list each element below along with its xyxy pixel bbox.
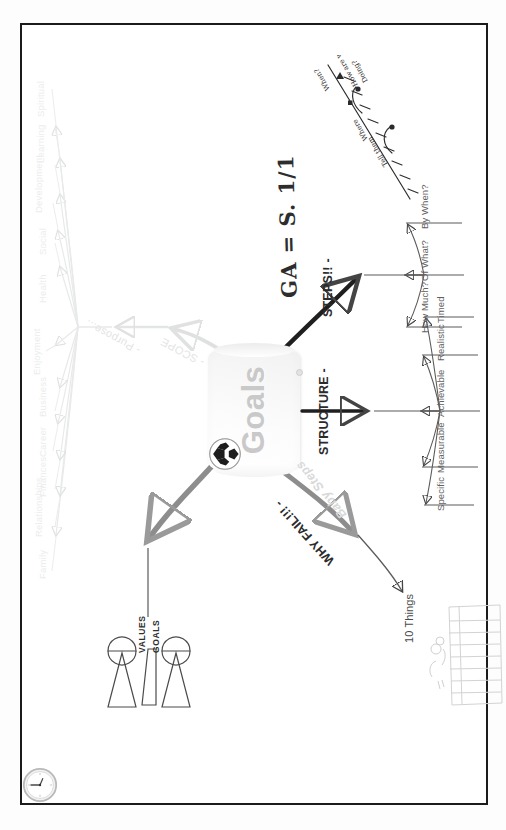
leaf-label-how-much: How Much?	[420, 282, 430, 333]
label-goals-caption: GOALS	[152, 620, 161, 653]
page-frame: Goals VALUES GOALS WHY FAIL	[20, 23, 488, 805]
life-areas-tails	[46, 89, 60, 571]
soccer-ball-icon	[208, 437, 242, 471]
sketch-note-where: Where	[351, 118, 370, 142]
branch-label-steps: STEPS!! -	[322, 258, 335, 317]
life-area-development: Development	[34, 155, 44, 213]
hand-drawn-grid-sketch	[426, 601, 504, 711]
life-area-career: Career	[38, 427, 48, 457]
life-area-family: Family	[38, 550, 48, 579]
life-area-business: Business	[38, 377, 48, 417]
leaf-label-of-what: Of What?	[420, 240, 430, 281]
leaf-label-10-things: 10 Things	[404, 594, 415, 643]
analog-clock-icon	[22, 767, 58, 803]
life-area-learning: Learning	[36, 124, 46, 163]
mindmap-canvas: Goals VALUES GOALS WHY FAIL	[22, 25, 486, 803]
life-area-social: Social	[38, 228, 48, 255]
leaf-label-specific: Specific	[436, 477, 446, 511]
bowtie-funnel-icon	[108, 637, 190, 707]
connector-10-things	[358, 535, 402, 591]
life-area-health: Health	[38, 274, 48, 303]
leaf-label-timed: Timed	[436, 296, 446, 323]
life-area-enjoyment: Enjoyment	[32, 328, 42, 375]
sketch-note-when: When?	[313, 67, 332, 92]
sketch-note-tell-them: Tell them	[366, 135, 390, 168]
handwritten-formula: GA = S. 1/1	[273, 154, 302, 298]
label-values: VALUES	[138, 616, 147, 653]
hand-drawn-timeline-sketch: When? How are we Doing? Where Tell them	[306, 55, 434, 205]
central-node-goals[interactable]: Goals	[208, 349, 300, 471]
leaf-label-realistic: Realistic	[436, 324, 446, 361]
leaf-label-measurable: Measurable	[436, 422, 446, 473]
life-area-finances: Finances	[38, 457, 48, 497]
mindmap-rotated-container: Goals VALUES GOALS WHY FAIL	[22, 25, 486, 803]
life-area-spiritual: Spiritual	[36, 81, 46, 117]
screenshot-page: Goals VALUES GOALS WHY FAIL	[0, 0, 506, 830]
branch-label-structure: STRUCTURE -	[318, 368, 331, 455]
node-anchor-dot	[296, 369, 303, 376]
leaf-label-achievable: Achievable	[436, 370, 446, 417]
